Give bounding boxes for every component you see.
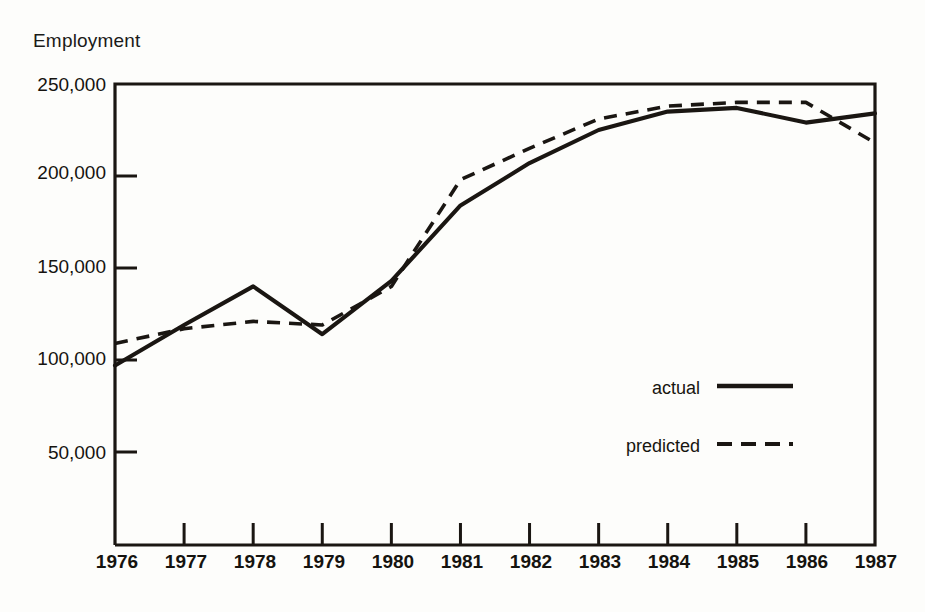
y-axis-ticks: [115, 176, 137, 452]
x-axis-ticks: [184, 523, 806, 545]
series-line-predicted: [115, 102, 875, 343]
series-line-actual: [115, 108, 875, 366]
plot-area: [0, 0, 925, 612]
axis-frame: [115, 84, 875, 545]
employment-line-chart: Employment 250,000 200,000 150,000 100,0…: [0, 0, 925, 612]
